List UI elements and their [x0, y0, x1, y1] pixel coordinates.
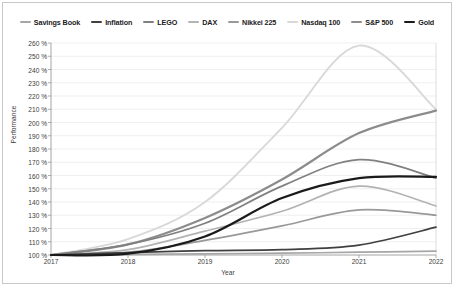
y-axis-tick: 130 %: [7, 212, 47, 219]
x-axis-tick: 2017: [44, 258, 59, 265]
chart-legend: Savings BookInflationLEGODAXNikkei 225Na…: [3, 16, 451, 28]
y-axis-tick: 230 %: [7, 79, 47, 86]
legend-item-nikkei-225[interactable]: Nikkei 225: [228, 18, 276, 27]
legend-swatch-icon: [404, 21, 415, 24]
x-axis-tick: 2020: [275, 258, 290, 265]
legend-swatch-icon: [188, 21, 199, 24]
x-axis-tick: 2019: [198, 258, 213, 265]
legend-swatch-icon: [20, 21, 31, 24]
y-axis-tick: 160 %: [7, 172, 47, 179]
legend-label: Nasdaq 100: [301, 18, 340, 27]
x-axis-tick: 2021: [352, 258, 367, 265]
legend-item-lego[interactable]: LEGO: [143, 18, 177, 27]
legend-swatch-icon: [228, 21, 239, 24]
x-axis-tick: 2022: [429, 258, 444, 265]
y-axis-tick: 110 %: [7, 238, 47, 245]
legend-item-dax[interactable]: DAX: [188, 18, 217, 27]
legend-item-gold[interactable]: Gold: [404, 18, 434, 27]
legend-item-savings-book[interactable]: Savings Book: [20, 18, 80, 27]
plot-area: [51, 43, 436, 255]
legend-label: DAX: [202, 18, 217, 27]
y-axis-tick: 240 %: [7, 66, 47, 73]
legend-label: Inflation: [105, 18, 132, 27]
legend-item-nasdaq-100[interactable]: Nasdaq 100: [287, 18, 340, 27]
legend-item-inflation[interactable]: Inflation: [91, 18, 132, 27]
legend-label: LEGO: [157, 18, 177, 27]
legend-label: Gold: [418, 18, 434, 27]
y-axis-tick: 140 %: [7, 199, 47, 206]
legend-label: Nikkei 225: [242, 18, 276, 27]
series-line-nasdaq-100: [51, 46, 436, 255]
y-axis-tick: 170 %: [7, 159, 47, 166]
legend-swatch-icon: [351, 21, 362, 24]
series-lines: [51, 43, 436, 255]
y-axis-tick: 250 %: [7, 53, 47, 60]
y-axis-tick: 100 %: [7, 252, 47, 259]
y-axis-tick: 260 %: [7, 40, 47, 47]
series-line-inflation: [51, 227, 436, 255]
chart-container: Savings BookInflationLEGODAXNikkei 225Na…: [2, 2, 452, 284]
x-axis-title: Year: [3, 269, 453, 276]
legend-swatch-icon: [287, 21, 298, 24]
x-axis-tick: 2018: [121, 258, 136, 265]
legend-swatch-icon: [143, 21, 154, 24]
y-axis-tick: 150 %: [7, 185, 47, 192]
y-axis-tick: 120 %: [7, 225, 47, 232]
legend-item-s-p-500[interactable]: S&P 500: [351, 18, 393, 27]
legend-swatch-icon: [91, 21, 102, 24]
y-axis-title: Performance: [10, 95, 17, 155]
legend-label: Savings Book: [34, 18, 80, 27]
legend-label: S&P 500: [365, 18, 393, 27]
